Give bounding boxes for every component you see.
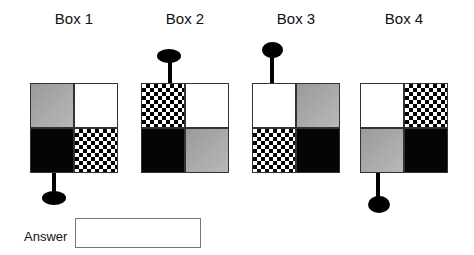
- box-1-pin-knob-icon: [42, 191, 66, 205]
- answer-label: Answer: [24, 229, 67, 244]
- box-2-title: Box 2: [140, 10, 230, 27]
- box-1-title: Box 1: [29, 10, 119, 27]
- box-2-pin-stem: [168, 60, 172, 83]
- box-1-cell-top-left: [31, 84, 73, 127]
- box-2-pin-knob-icon: [157, 49, 181, 63]
- box-4-cell-bottom-left: [361, 129, 403, 172]
- box-1-cell-top-right: [75, 84, 117, 127]
- answer-input[interactable]: [75, 218, 201, 248]
- box-4-cell-bottom-right: [405, 129, 447, 172]
- box-2-cell-top-left: [142, 84, 184, 127]
- box-1-cell-bottom-left: [31, 129, 73, 172]
- box-1-cell-bottom-right: [75, 129, 117, 172]
- box-2-cell-top-right: [186, 84, 228, 127]
- box-3-title: Box 3: [251, 10, 341, 27]
- box-3-cell-bottom-right: [297, 129, 339, 172]
- box-3-pin-knob-icon: [262, 42, 283, 58]
- box-2-cell-bottom-right: [186, 129, 228, 172]
- box-4-title: Box 4: [359, 10, 449, 27]
- box-3-cell-top-left: [253, 84, 295, 127]
- box-4-pin-stem: [376, 173, 380, 198]
- box-1: [30, 83, 118, 173]
- box-3-cell-top-right: [297, 84, 339, 127]
- box-2: [141, 83, 229, 173]
- box-4-pin-knob-icon: [368, 196, 390, 213]
- box-4-cell-top-left: [361, 84, 403, 127]
- box-3: [252, 83, 340, 173]
- box-2-cell-bottom-left: [142, 129, 184, 172]
- box-4-cell-top-right: [405, 84, 447, 127]
- box-4: [360, 83, 448, 173]
- box-3-pin-stem: [270, 55, 274, 83]
- box-3-cell-bottom-left: [253, 129, 295, 172]
